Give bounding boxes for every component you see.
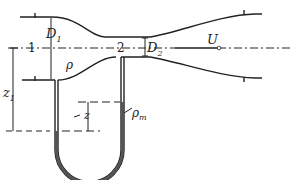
- label-D1: D1: [46, 27, 62, 44]
- label-U: U: [207, 33, 218, 46]
- label-section-2: 2: [117, 42, 125, 54]
- diagram-svg: [0, 0, 292, 180]
- label-z: z: [84, 110, 90, 121]
- label-rho: ρ: [66, 59, 73, 71]
- label-rho-m: ρm: [132, 107, 147, 122]
- venturi-diagram: D1 1 2 D2 U ρ ρm z z1: [0, 0, 292, 180]
- label-z1: z1: [3, 86, 15, 103]
- label-section-1: 1: [28, 42, 36, 54]
- pipe-bottom-wall: [22, 57, 262, 80]
- label-D2: D2: [147, 41, 163, 58]
